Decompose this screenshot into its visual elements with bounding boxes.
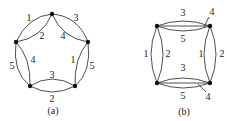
edge-b-right-outer xyxy=(210,26,216,83)
edge-a-top-left-outer xyxy=(16,14,52,42)
caption-b: (b) xyxy=(178,106,190,118)
label-b-bottom-outer: 5 xyxy=(181,90,186,101)
edge-b-right-inner xyxy=(204,26,210,83)
edge-a-top-right-outer xyxy=(52,14,88,42)
edge-b-left-outer xyxy=(151,26,157,83)
vertex-a-bottom-left xyxy=(28,84,32,88)
vertex-b-bottom-right xyxy=(208,81,212,85)
label-a-bottom-outer: 2 xyxy=(50,93,55,104)
edge-b-left-inner xyxy=(157,26,163,83)
label-b-top-inner: 5 xyxy=(181,33,186,44)
label-a-right-outer: 5 xyxy=(90,60,95,71)
edge-b-top-inner xyxy=(157,26,210,31)
vertex-b-top-left xyxy=(155,24,159,28)
label-a-top-left-inner: 2 xyxy=(40,30,45,41)
edge-b-top-outer xyxy=(157,21,210,26)
vertex-a-bottom-right xyxy=(73,84,77,88)
label-a-left-outer: 5 xyxy=(10,60,15,71)
vertex-a-right xyxy=(86,40,90,44)
label-b-bottom-middle: 4 xyxy=(206,91,211,102)
edge-a-bottom-outer xyxy=(30,86,75,92)
vertex-b-top-right xyxy=(208,24,212,28)
label-a-top-right-outer: 3 xyxy=(74,12,79,23)
label-b-right-outer: 2 xyxy=(220,48,225,59)
edge-b-bottom-inner xyxy=(157,78,210,83)
label-b-right-inner: 1 xyxy=(199,48,204,59)
label-a-right-inner: 1 xyxy=(71,54,76,65)
edge-a-top-left-inner xyxy=(16,14,52,42)
graph-a: 1 2 3 4 1 5 3 2 4 5 (a) xyxy=(10,12,95,117)
label-b-top-middle: 4 xyxy=(210,6,215,17)
label-a-left-inner: 4 xyxy=(31,54,36,65)
label-b-left-inner: 2 xyxy=(166,48,171,59)
edge-a-top-right-inner xyxy=(52,14,88,42)
label-b-top-outer: 3 xyxy=(181,7,186,18)
figure-canvas: 1 2 3 4 1 5 3 2 4 5 (a) 3 4 xyxy=(0,0,227,121)
vertex-a-top xyxy=(50,12,54,16)
vertex-b-bottom-left xyxy=(155,81,159,85)
label-a-top-right-inner: 4 xyxy=(61,30,66,41)
graph-b: 3 4 5 1 2 1 2 3 4 5 (b) xyxy=(144,6,225,118)
label-b-bottom-inner: 3 xyxy=(181,62,186,73)
caption-a: (a) xyxy=(47,105,58,117)
label-a-bottom-inner: 3 xyxy=(50,69,55,80)
vertex-a-left xyxy=(14,40,18,44)
label-a-top-left-outer: 1 xyxy=(27,12,32,23)
edge-b-bottom-outer xyxy=(157,83,210,88)
label-b-left-outer: 1 xyxy=(144,48,149,59)
